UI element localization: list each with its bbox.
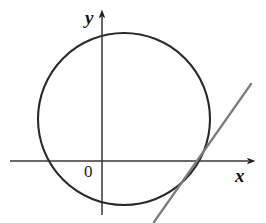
tangent-line	[154, 84, 251, 222]
axes-group	[10, 17, 248, 215]
plot-shapes-group	[38, 33, 251, 222]
y-axis-label: y	[85, 8, 93, 27]
origin-label: 0	[84, 163, 93, 180]
figure-canvas: y x 0	[0, 0, 266, 223]
figure-svg	[0, 0, 266, 223]
x-axis-label: x	[235, 166, 245, 185]
